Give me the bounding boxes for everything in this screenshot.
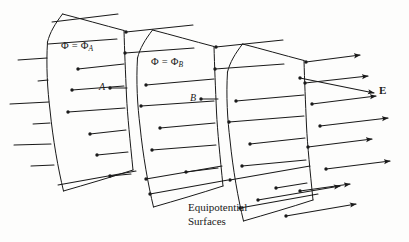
electric-field-label: E [379, 84, 386, 97]
surface-a-phi-text: Φ = Φ [61, 40, 89, 51]
caption-line-1: Equipotential [188, 201, 247, 215]
field-line-row-4 [38, 80, 388, 128]
equipotential-surfaces-figure: Φ = ΦA Φ = ΦB A B E Equipotential Surfac… [0, 0, 409, 242]
resultant-field-arrow [298, 76, 374, 93]
field-line-row-3 [18, 58, 376, 106]
surface-c-outline [227, 44, 313, 221]
field-line-row-5 [10, 102, 372, 149]
surface-b-potential-label: Φ = ΦB [151, 56, 183, 69]
caption-line-2: Surfaces [188, 215, 247, 229]
field-line-row-1 [52, 14, 360, 64]
point-leader-lines [108, 86, 218, 100]
surface-b-phi-text: Φ = Φ [151, 56, 179, 67]
field-line-row-6 [33, 123, 390, 171]
figure-caption: Equipotential Surfaces [188, 201, 247, 229]
point-a-label: A [99, 81, 105, 93]
field-line-row-2 [48, 39, 368, 85]
surface-a-potential-label: Φ = ΦA [61, 40, 93, 53]
point-b-label: B [190, 92, 196, 104]
surface-a-phi-subscript: A [89, 44, 94, 53]
surface-b-phi-subscript: B [179, 60, 184, 69]
